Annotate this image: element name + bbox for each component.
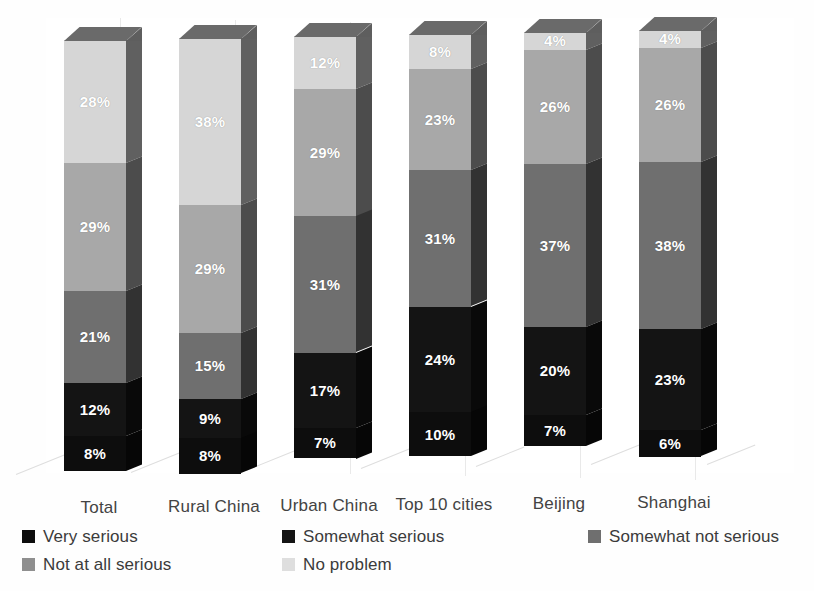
bar-segment[interactable]: 17% bbox=[294, 353, 356, 428]
bar-side-segment bbox=[241, 432, 257, 474]
bar-stack: 8%23%31%24%10% bbox=[409, 34, 471, 474]
bar-segment[interactable]: 26% bbox=[524, 50, 586, 164]
bar-segment[interactable]: 29% bbox=[64, 163, 126, 291]
x-axis-label-shanghai: Shanghai bbox=[617, 493, 731, 513]
bar-side-segment bbox=[356, 346, 372, 427]
legend-item-not-at-all-serious[interactable]: Not at all serious bbox=[22, 556, 171, 573]
bar-segment-value-label: 6% bbox=[659, 436, 681, 451]
bar-side-face bbox=[356, 36, 372, 476]
bar-column[interactable]: 8%23%31%24%10% bbox=[409, 34, 471, 474]
bar-segment[interactable]: 29% bbox=[179, 205, 241, 333]
bar-segment-value-label: 4% bbox=[659, 31, 681, 46]
bar-segment[interactable]: 20% bbox=[524, 327, 586, 415]
bar-segment[interactable]: 31% bbox=[294, 216, 356, 352]
bar-side-segment bbox=[471, 164, 487, 307]
x-axis-label-total: Total bbox=[42, 498, 156, 518]
bar-segment[interactable]: 6% bbox=[639, 430, 701, 456]
bar-segment[interactable]: 23% bbox=[639, 329, 701, 430]
bar-segment[interactable]: 7% bbox=[294, 428, 356, 459]
bar-segment-value-label: 8% bbox=[429, 44, 451, 59]
bar-segment-value-label: 29% bbox=[310, 145, 341, 160]
bar-segment[interactable]: 4% bbox=[639, 30, 701, 48]
bar-segment-value-label: 10% bbox=[425, 427, 456, 442]
bar-segment-value-label: 26% bbox=[655, 97, 686, 112]
bar-side-segment bbox=[471, 63, 487, 171]
bar-stack: 4%26%37%20%7% bbox=[524, 32, 586, 472]
bar-segment-value-label: 31% bbox=[425, 231, 456, 246]
legend-label: No problem bbox=[303, 556, 392, 573]
bar-side-segment bbox=[356, 421, 372, 458]
bar-segment-value-label: 8% bbox=[199, 448, 221, 463]
bar-segment[interactable]: 24% bbox=[409, 307, 471, 413]
bar-side-segment bbox=[356, 36, 372, 89]
bar-side-segment bbox=[241, 199, 257, 333]
bar-side-segment bbox=[586, 43, 602, 164]
legend-item-somewhat-serious[interactable]: Somewhat serious bbox=[282, 528, 444, 545]
bar-segment-value-label: 20% bbox=[540, 363, 571, 378]
bar-segment[interactable]: 7% bbox=[524, 415, 586, 446]
bar-segment-value-label: 29% bbox=[80, 219, 111, 234]
bar-segment[interactable]: 38% bbox=[639, 162, 701, 329]
chart-legend: Very seriousNot at all seriousSomewhat s… bbox=[0, 528, 814, 586]
bar-segment-value-label: 23% bbox=[425, 112, 456, 127]
bar-segment[interactable]: 8% bbox=[64, 436, 126, 471]
bar-segment[interactable]: 8% bbox=[409, 34, 471, 69]
bar-side-segment bbox=[471, 300, 487, 412]
bar-segment-value-label: 15% bbox=[195, 358, 226, 373]
legend-item-very-serious[interactable]: Very serious bbox=[22, 528, 138, 545]
bar-side-segment bbox=[356, 210, 372, 353]
bar-segment[interactable]: 31% bbox=[409, 170, 471, 306]
bar-side-segment bbox=[126, 284, 142, 383]
legend-item-no-problem[interactable]: No problem bbox=[282, 556, 392, 573]
bar-segment[interactable]: 26% bbox=[639, 48, 701, 162]
bar-side-segment bbox=[701, 156, 717, 330]
bar-segment-value-label: 12% bbox=[310, 55, 341, 70]
bar-segment-value-label: 4% bbox=[544, 33, 566, 48]
legend-label: Somewhat not serious bbox=[609, 528, 779, 545]
bar-segment-value-label: 7% bbox=[314, 435, 336, 450]
bar-column[interactable]: 28%29%21%12%8% bbox=[64, 40, 126, 480]
bar-stack: 4%26%38%23%6% bbox=[639, 30, 701, 470]
bar-side-face bbox=[701, 30, 717, 470]
bar-side-segment bbox=[586, 320, 602, 414]
bar-segment[interactable]: 8% bbox=[179, 438, 241, 473]
bar-segment-value-label: 29% bbox=[195, 261, 226, 276]
bar-side-segment bbox=[126, 430, 142, 472]
bar-segment-value-label: 21% bbox=[80, 329, 111, 344]
bar-side-segment bbox=[356, 82, 372, 216]
bar-segment-value-label: 23% bbox=[655, 372, 686, 387]
legend-label: Not at all serious bbox=[43, 556, 171, 573]
bar-segment[interactable]: 37% bbox=[524, 164, 586, 327]
bar-segment[interactable]: 12% bbox=[64, 383, 126, 436]
bar-column[interactable]: 38%29%15%9%8% bbox=[179, 38, 241, 478]
x-axis-category-labels: TotalRural ChinaUrban ChinaTop 10 cities… bbox=[0, 492, 814, 522]
bar-segment[interactable]: 10% bbox=[409, 412, 471, 456]
bar-side-segment bbox=[241, 38, 257, 205]
bar-segment-value-label: 12% bbox=[80, 402, 111, 417]
bar-side-segment bbox=[701, 41, 717, 162]
x-axis-label-beijing: Beijing bbox=[502, 494, 616, 514]
bar-segment[interactable]: 38% bbox=[179, 38, 241, 205]
bar-segment[interactable]: 28% bbox=[64, 40, 126, 163]
x-axis-label-urban-china: Urban China bbox=[272, 496, 386, 516]
bar-side-segment bbox=[586, 158, 602, 327]
legend-item-somewhat-not-serious[interactable]: Somewhat not serious bbox=[588, 528, 779, 545]
bar-segment[interactable]: 4% bbox=[524, 32, 586, 50]
x-axis-label-rural-china: Rural China bbox=[157, 497, 271, 517]
legend-swatch-icon bbox=[588, 530, 601, 543]
bar-side-segment bbox=[126, 40, 142, 163]
bar-side-segment bbox=[701, 323, 717, 431]
bar-segment[interactable]: 23% bbox=[409, 69, 471, 170]
bar-column[interactable]: 12%29%31%17%7% bbox=[294, 36, 356, 476]
bar-segment[interactable]: 21% bbox=[64, 291, 126, 383]
bar-side-segment bbox=[586, 408, 602, 445]
bar-column[interactable]: 4%26%38%23%6% bbox=[639, 30, 701, 470]
bar-segment[interactable]: 29% bbox=[294, 89, 356, 217]
bar-segment[interactable]: 12% bbox=[294, 36, 356, 89]
bar-side-segment bbox=[126, 157, 142, 291]
bar-side-segment bbox=[471, 406, 487, 456]
bar-column[interactable]: 4%26%37%20%7% bbox=[524, 32, 586, 472]
bar-segment[interactable]: 15% bbox=[179, 333, 241, 399]
bar-segment[interactable]: 9% bbox=[179, 399, 241, 439]
bar-side-face bbox=[241, 38, 257, 478]
